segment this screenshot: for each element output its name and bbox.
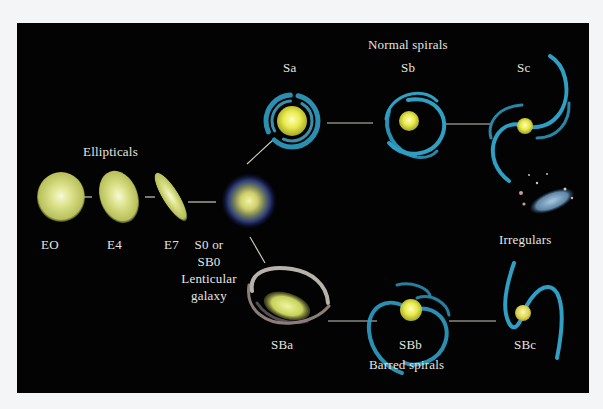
- galaxy-e7: [149, 169, 192, 225]
- label-e0: EO: [41, 237, 59, 253]
- diagram-artwork: [17, 23, 589, 393]
- galaxy-irregular: [519, 173, 578, 219]
- label-sba: SBa: [271, 337, 293, 353]
- label-sbc: SBc: [514, 337, 536, 353]
- group-label-irregulars: Irregulars: [499, 232, 552, 248]
- label-sbb: SBb: [399, 337, 422, 353]
- label-sa: Sa: [283, 60, 296, 76]
- hubble-diagram-panel: Ellipticals Normal spirals Barred spiral…: [17, 23, 589, 393]
- galaxy-sa: [266, 95, 318, 147]
- galaxy-e0: [37, 172, 85, 222]
- label-s0-line1: S0 or: [179, 237, 239, 253]
- label-e7: E7: [164, 237, 179, 253]
- connector-s0-sa: [247, 140, 273, 164]
- galaxy-sba: [249, 268, 329, 326]
- galaxy-sb: [386, 93, 444, 157]
- connector-s0-sba: [250, 237, 265, 263]
- group-label-normal-spirals: Normal spirals: [368, 37, 448, 53]
- galaxy-s0: [221, 173, 277, 229]
- galaxy-e4: [92, 165, 146, 229]
- label-s0-line3: Lenticular: [169, 271, 249, 287]
- group-label-ellipticals: Ellipticals: [83, 144, 138, 160]
- label-e4: E4: [107, 237, 122, 253]
- label-sb: Sb: [401, 60, 415, 76]
- group-label-barred-spirals: Barred spirals: [369, 357, 444, 373]
- label-s0-line2: SB0: [179, 254, 239, 270]
- label-sc: Sc: [517, 60, 530, 76]
- label-s0-line4: galaxy: [179, 288, 239, 304]
